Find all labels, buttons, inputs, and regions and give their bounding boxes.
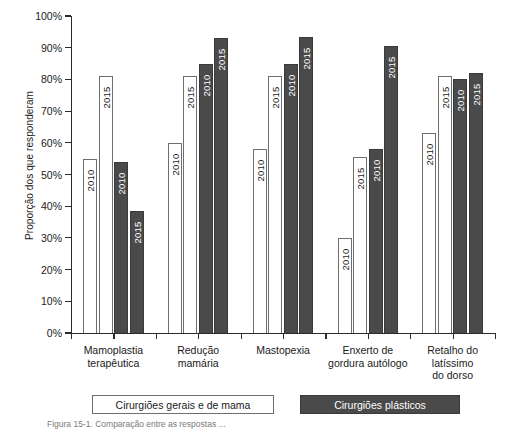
x-axis-group-boundary-tick bbox=[410, 333, 411, 339]
bar-light-2015: 2015 bbox=[438, 76, 452, 333]
bar-dark-2015: 2015 bbox=[469, 73, 483, 333]
y-axis-tick-label: 100% bbox=[35, 10, 62, 22]
y-axis-tick-label: 30% bbox=[41, 232, 62, 244]
y-axis-tick bbox=[65, 174, 71, 175]
x-axis-group-boundary-tick bbox=[71, 333, 72, 339]
category-label-line: Mamoplastia bbox=[71, 344, 156, 357]
plot-area: 0%10%20%30%40%50%60%70%80%90%100%2010201… bbox=[71, 16, 495, 333]
y-axis-tick bbox=[65, 79, 71, 80]
y-axis-tick bbox=[65, 47, 71, 48]
x-axis-category-label: Mamoplastiaterapêutica bbox=[71, 344, 156, 369]
category-label-line: gordura autólogo bbox=[325, 357, 410, 370]
x-axis-group-boundary-tick bbox=[325, 333, 326, 339]
bar-light-2015: 2015 bbox=[353, 157, 367, 333]
y-axis-tick-label: 10% bbox=[41, 295, 62, 307]
bar-light-2010: 2010 bbox=[83, 159, 97, 333]
bar-year-label: 2015 bbox=[386, 57, 397, 79]
bar-year-label: 2010 bbox=[339, 248, 350, 270]
y-axis-tick bbox=[65, 142, 71, 143]
y-axis-tick-label: 90% bbox=[41, 42, 62, 54]
bar-year-label: 2015 bbox=[439, 87, 450, 109]
figure-caption: Figura 15-1. Comparação entre as respost… bbox=[47, 419, 487, 429]
y-axis-tick bbox=[65, 237, 71, 238]
x-axis-tick bbox=[453, 333, 454, 339]
bar-year-label: 2010 bbox=[370, 160, 381, 182]
x-axis-category-label: Reduçãomamária bbox=[156, 344, 241, 369]
bar-light-2010: 2010 bbox=[253, 149, 267, 333]
bar-year-label: 2015 bbox=[216, 49, 227, 71]
bar-dark-2015: 2015 bbox=[299, 37, 313, 333]
bar-year-label: 2015 bbox=[270, 87, 281, 109]
bar-dark-2010: 2010 bbox=[114, 162, 128, 333]
x-axis-category-label: Mastopexia bbox=[241, 344, 326, 357]
category-label-line: Enxerto de bbox=[325, 344, 410, 357]
x-axis-tick bbox=[113, 333, 114, 339]
bar-light-2015: 2015 bbox=[99, 76, 113, 333]
x-axis-category-label: Retalho dolatíssimodo dorso bbox=[410, 344, 495, 382]
bar-year-label: 2010 bbox=[254, 160, 265, 182]
legend-item-dark[interactable]: Cirurgiões plásticos bbox=[300, 395, 460, 414]
bar-year-label: 2010 bbox=[285, 74, 296, 96]
bar-year-label: 2010 bbox=[85, 169, 96, 191]
bar-year-label: 2010 bbox=[455, 90, 466, 112]
y-axis-title: Proporção dos que responderam bbox=[24, 51, 35, 281]
bar-dark-2010: 2010 bbox=[199, 64, 213, 333]
y-axis-tick-label: 60% bbox=[41, 137, 62, 149]
bar-year-label: 2015 bbox=[470, 84, 481, 106]
bar-light-2015: 2015 bbox=[183, 76, 197, 333]
y-axis-tick-label: 0% bbox=[47, 327, 62, 339]
bar-light-2010: 2010 bbox=[168, 143, 182, 333]
bar-year-label: 2010 bbox=[424, 144, 435, 166]
bar-year-label: 2015 bbox=[301, 47, 312, 69]
x-axis-group-boundary-tick bbox=[495, 333, 496, 339]
bar-dark-2015: 2015 bbox=[384, 46, 398, 333]
bar-dark-2010: 2010 bbox=[369, 149, 383, 333]
x-axis-tick bbox=[198, 333, 199, 339]
y-axis-tick bbox=[65, 111, 71, 112]
category-label-line: Redução bbox=[156, 344, 241, 357]
bar-dark-2010: 2010 bbox=[453, 79, 467, 333]
x-axis-category-label: Enxerto degordura autólogo bbox=[325, 344, 410, 369]
bar-year-label: 2015 bbox=[100, 87, 111, 109]
x-axis-group-boundary-tick bbox=[156, 333, 157, 339]
y-axis-tick-label: 40% bbox=[41, 200, 62, 212]
legend-item-light[interactable]: Cirurgiões gerais e de mama bbox=[92, 395, 274, 414]
bar-year-label: 2015 bbox=[131, 222, 142, 244]
bar-dark-2015: 2015 bbox=[130, 211, 144, 333]
legend-label: Cirurgiões gerais e de mama bbox=[116, 399, 251, 411]
bar-dark-2010: 2010 bbox=[284, 64, 298, 333]
bar-year-label: 2010 bbox=[116, 172, 127, 194]
y-axis-tick-label: 80% bbox=[41, 73, 62, 85]
y-axis-tick bbox=[65, 15, 71, 16]
category-label-line: terapêutica bbox=[71, 357, 156, 370]
bar-light-2010: 2010 bbox=[338, 238, 352, 333]
category-label-line: Mastopexia bbox=[241, 344, 326, 357]
x-axis-tick bbox=[368, 333, 369, 339]
bar-year-label: 2015 bbox=[185, 87, 196, 109]
y-axis-tick bbox=[65, 269, 71, 270]
bar-year-label: 2010 bbox=[169, 153, 180, 175]
category-label-line: do dorso bbox=[410, 369, 495, 382]
legend-label: Cirurgiões plásticos bbox=[334, 399, 426, 411]
bar-year-label: 2015 bbox=[355, 168, 366, 190]
y-axis-line bbox=[71, 16, 72, 333]
bar-light-2015: 2015 bbox=[268, 76, 282, 333]
y-axis-tick bbox=[65, 301, 71, 302]
category-label-line: latíssimo bbox=[410, 357, 495, 370]
y-axis-tick-label: 20% bbox=[41, 264, 62, 276]
x-axis-tick bbox=[283, 333, 284, 339]
category-label-line: Retalho do bbox=[410, 344, 495, 357]
y-axis-tick-label: 50% bbox=[41, 169, 62, 181]
bar-year-label: 2010 bbox=[200, 74, 211, 96]
y-axis-tick bbox=[65, 206, 71, 207]
x-axis-group-boundary-tick bbox=[241, 333, 242, 339]
y-axis-tick-label: 70% bbox=[41, 105, 62, 117]
category-label-line: mamária bbox=[156, 357, 241, 370]
bar-dark-2015: 2015 bbox=[214, 38, 228, 333]
bar-light-2010: 2010 bbox=[422, 133, 436, 333]
